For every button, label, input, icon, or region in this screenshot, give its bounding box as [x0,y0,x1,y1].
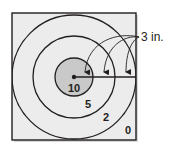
ring-label-5: 5 [85,98,91,110]
units-label: 3 in. [141,30,164,44]
ring-label-10: 10 [68,82,80,94]
ring-label-2: 2 [103,111,109,123]
ring-label-0: 0 [125,124,131,136]
target-diagram: 3 in. 10 5 2 0 [0,0,183,150]
